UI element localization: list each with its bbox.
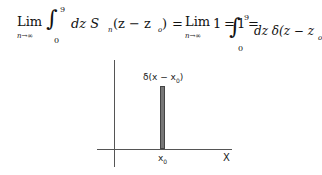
delta-integral: ∫ 9 0 dz δ(z − z o xyxy=(0,8,300,48)
y-axis xyxy=(114,60,115,167)
peak-label: δ(x − x0) xyxy=(143,72,183,84)
x0-tick-label: x0 xyxy=(158,153,167,165)
delta-spike xyxy=(160,86,165,149)
integrand-subscript: o xyxy=(318,34,322,42)
integral-sign: ∫ xyxy=(229,14,240,39)
integrand: dz δ(z − z xyxy=(254,24,314,38)
upper-limit: 9 xyxy=(244,13,249,22)
x-axis-label: X xyxy=(223,152,230,163)
lower-limit: 0 xyxy=(238,44,243,53)
x-axis xyxy=(97,149,232,150)
